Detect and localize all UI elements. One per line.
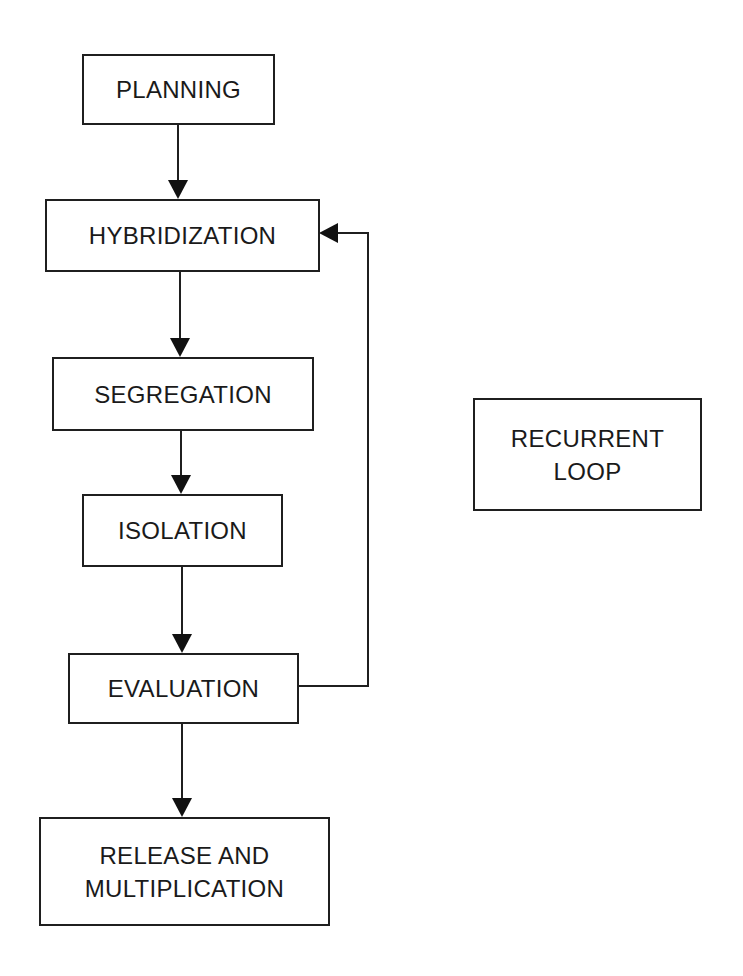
- node-label: HYBRIDIZATION: [89, 219, 276, 252]
- arrowhead-icon: [319, 223, 338, 243]
- node-label: ISOLATION: [118, 514, 247, 547]
- node-label: PLANNING: [116, 73, 241, 106]
- arrowhead-icon: [172, 634, 192, 653]
- arrowhead-icon: [170, 338, 190, 357]
- node-segregation: SEGREGATION: [52, 357, 314, 431]
- recurrent-loop-line: [298, 233, 368, 686]
- node-label-line2: MULTIPLICATION: [85, 872, 284, 905]
- node-evaluation: EVALUATION: [68, 653, 299, 724]
- node-label: EVALUATION: [108, 672, 259, 705]
- legend-label-line1: RECURRENT: [511, 422, 664, 455]
- node-label-line1: RELEASE AND: [99, 839, 269, 872]
- arrowhead-icon: [172, 798, 192, 817]
- node-isolation: ISOLATION: [82, 494, 283, 567]
- legend-recurrent-loop: RECURRENT LOOP: [473, 398, 702, 511]
- node-release-and-multiplication: RELEASE AND MULTIPLICATION: [39, 817, 330, 926]
- legend-label-line2: LOOP: [554, 455, 622, 488]
- node-label: SEGREGATION: [94, 378, 272, 411]
- arrowhead-icon: [171, 475, 191, 494]
- node-hybridization: HYBRIDIZATION: [45, 199, 320, 272]
- arrowhead-icon: [168, 180, 188, 199]
- node-planning: PLANNING: [82, 54, 275, 125]
